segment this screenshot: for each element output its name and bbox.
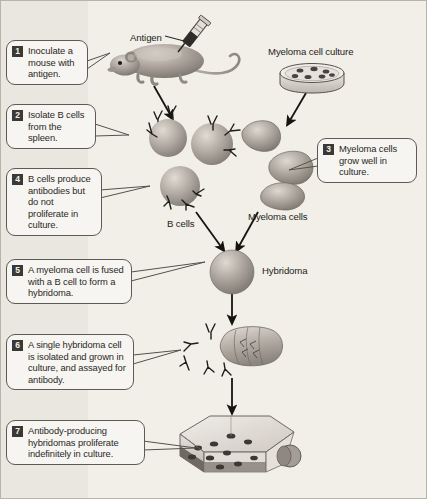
step-text-3: Myeloma cells grow well in culture. [339,143,410,178]
label-myeloma-cells: Myeloma cells [248,211,307,222]
step-text-2: Isolate B cells from the spleen. [28,109,89,144]
step-number-3: 3 [323,144,334,155]
step-text-6: A single hybridoma cell is isolated and … [28,339,127,385]
step-number-7: 7 [12,426,23,437]
callout-step-4[interactable]: 4 B cells produce antibodies but do not … [6,168,102,236]
petri-dish-illustration [276,62,352,96]
step-number-2: 2 [12,110,23,121]
label-b-cells: B cells [167,218,195,229]
callout-step-5[interactable]: 5 A myeloma cell is fused with a B cell … [6,259,132,304]
step-number-4: 4 [12,174,23,185]
label-myeloma-cell-culture: Myeloma cell culture [268,46,353,57]
step-number-6: 6 [12,340,23,351]
callout-step-1[interactable]: 1 Inoculate a mouse with antigen. [6,40,88,85]
callout-step-2[interactable]: 2 Isolate B cells from the spleen. [6,104,96,149]
culture-flask-illustration [174,412,310,484]
hybridoma-cell-illustration [206,248,260,298]
step-text-5: A myeloma cell is fused with a B cell to… [28,264,125,299]
step-number-5: 5 [12,265,23,276]
step-text-4: B cells produce antibodies but do not pr… [28,173,95,231]
step-number-1: 1 [12,46,23,57]
label-hybridoma: Hybridoma [262,265,308,276]
hybridoma-with-antibodies-illustration [178,322,298,380]
callout-step-3[interactable]: 3 Myeloma cells grow well in culture. [317,138,417,183]
diagram-canvas: 1 Inoculate a mouse with antigen. 2 Isol… [0,0,427,499]
callout-step-7[interactable]: 7 Antibody-producing hybridomas prolifer… [6,420,145,465]
label-antigen: Antigen [130,32,162,43]
step-text-1: Inoculate a mouse with antigen. [28,45,81,80]
callout-step-6[interactable]: 6 A single hybridoma cell is isolated an… [6,334,134,390]
step-text-7: Antibody-producing hybridomas proliferat… [28,425,138,460]
